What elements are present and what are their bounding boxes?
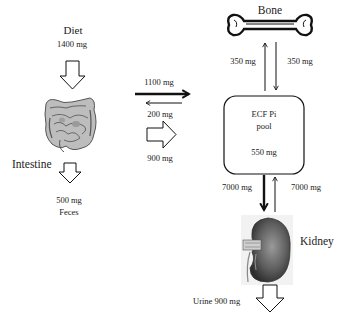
feces-label: Feces bbox=[59, 207, 78, 217]
diet-label: Diet bbox=[64, 24, 83, 36]
intestine-illustration-icon bbox=[45, 98, 96, 152]
bone-illustration-icon bbox=[228, 15, 312, 35]
intestine-label: Intestine bbox=[12, 158, 52, 170]
ecf-pool-title: ECF Pi bbox=[252, 109, 277, 119]
bone-label: Bone bbox=[258, 4, 282, 16]
diet-amount: 1400 mg bbox=[57, 39, 88, 49]
feces-hollow-down-arrow-icon bbox=[59, 163, 81, 183]
urine-hollow-down-arrow-icon bbox=[256, 285, 284, 312]
reabsorption-label: 7000 mg bbox=[291, 182, 322, 192]
absorption-flow-label: 1100 mg bbox=[144, 77, 174, 87]
diet-node: Diet 1400 mg bbox=[57, 24, 88, 49]
ecf-pool-amount: 550 mg bbox=[251, 147, 277, 157]
kidney-label: Kidney bbox=[300, 235, 334, 248]
feces-amount: 500 mg bbox=[56, 195, 82, 205]
secretion-flow-label: 200 mg bbox=[147, 109, 173, 119]
diet-hollow-down-arrow-icon bbox=[60, 61, 85, 89]
phosphate-balance-diagram: Diet 1400 mg Intestine 500 mg Feces 1100… bbox=[0, 0, 341, 321]
kidney-illustration-icon bbox=[241, 215, 293, 285]
net-absorption-hollow-right-arrow-icon bbox=[147, 121, 176, 148]
diagram-canvas: Diet 1400 mg Intestine 500 mg Feces 1100… bbox=[0, 0, 341, 321]
bone-deposition-label: 350 mg bbox=[287, 56, 313, 66]
ecf-pool-subtitle: pool bbox=[256, 121, 272, 131]
net-absorption-label: 900 mg bbox=[147, 153, 173, 163]
bone-resorption-label: 350 mg bbox=[230, 56, 256, 66]
urine-label: Urine 900 mg bbox=[193, 296, 241, 306]
filtration-label: 7000 mg bbox=[222, 182, 253, 192]
ecf-pool-box bbox=[224, 96, 304, 174]
